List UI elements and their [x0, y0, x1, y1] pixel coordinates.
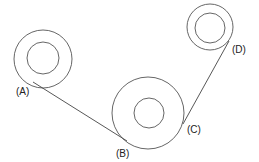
left-pulley-inner-ring — [27, 42, 59, 74]
label-d: (D) — [232, 44, 246, 55]
left-pulley-outer-ring — [14, 30, 72, 88]
label-c: (C) — [187, 124, 201, 135]
label-b: (B) — [116, 148, 129, 159]
pulley-belt-diagram: (A) (B) (C) (D) — [0, 0, 259, 162]
right-pulley — [187, 4, 233, 50]
left-pulley — [14, 30, 72, 88]
right-pulley-inner-ring — [195, 13, 225, 43]
belt-segment-ab — [33, 82, 127, 141]
belt-segment-cd — [183, 41, 229, 124]
bottom-pulley-inner-ring — [134, 98, 164, 128]
label-a: (A) — [16, 86, 29, 97]
